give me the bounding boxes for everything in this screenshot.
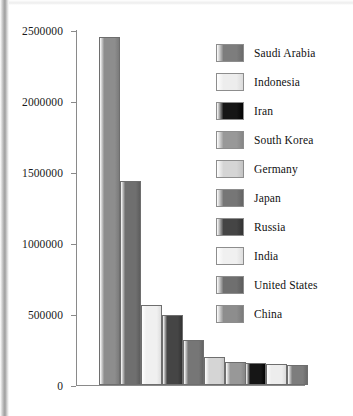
legend-swatch: [216, 131, 244, 149]
legend-label: Japan: [254, 192, 281, 204]
legend-item-iran[interactable]: Iran: [216, 96, 353, 125]
legend-item-japan[interactable]: Japan: [216, 183, 353, 212]
chart-legend: Saudi ArabiaIndonesiaIranSouth KoreaGerm…: [216, 38, 353, 328]
bar-saudi-arabia[interactable]: [287, 365, 308, 385]
legend-swatch: [216, 160, 244, 178]
legend-swatch: [216, 305, 244, 323]
legend-swatch: [216, 44, 244, 62]
legend-label: Indonesia: [254, 76, 300, 88]
legend-swatch: [216, 102, 244, 120]
bar-russia[interactable]: [162, 315, 183, 385]
legend-label: Russia: [254, 221, 286, 233]
bar-indonesia[interactable]: [266, 364, 287, 385]
legend-swatch: [216, 218, 244, 236]
bar-iran[interactable]: [245, 363, 266, 385]
legend-item-saudi-arabia[interactable]: Saudi Arabia: [216, 38, 353, 67]
legend-label: South Korea: [254, 134, 313, 146]
y-axis-tick-label: 1500000: [22, 167, 63, 179]
y-axis-tick-label: 500000: [28, 309, 63, 321]
legend-item-united-states[interactable]: United States: [216, 270, 353, 299]
bar-south-korea[interactable]: [225, 362, 246, 385]
legend-label: United States: [254, 279, 318, 291]
bar-india[interactable]: [141, 305, 162, 385]
y-axis-tick-label: 1000000: [22, 238, 63, 250]
legend-item-germany[interactable]: Germany: [216, 154, 353, 183]
legend-swatch: [216, 189, 244, 207]
legend-label: Germany: [254, 163, 298, 175]
legend-label: Iran: [254, 105, 273, 117]
y-axis-tick-label: 0: [57, 380, 63, 392]
x-axis-line: [76, 385, 305, 386]
legend-item-india[interactable]: India: [216, 241, 353, 270]
legend-item-russia[interactable]: Russia: [216, 212, 353, 241]
frame-edge-top: [0, 0, 353, 5]
y-axis-tick-label: 2000000: [22, 96, 63, 108]
legend-item-south-korea[interactable]: South Korea: [216, 125, 353, 154]
legend-item-indonesia[interactable]: Indonesia: [216, 67, 353, 96]
legend-label: Saudi Arabia: [254, 47, 316, 59]
legend-swatch: [216, 276, 244, 294]
legend-label: India: [254, 250, 278, 262]
bar-united-states[interactable]: [120, 181, 141, 385]
y-axis-tick: 1000000: [71, 244, 76, 245]
y-axis-tick: 2000000: [71, 102, 76, 103]
y-axis-tick: 500000: [71, 315, 76, 316]
frame-edge-left: [0, 0, 9, 416]
y-axis-tick-label: 2500000: [22, 25, 63, 37]
bar-china[interactable]: [99, 37, 120, 385]
bar-germany[interactable]: [204, 357, 225, 385]
legend-label: China: [254, 308, 282, 320]
y-axis-tick: 0: [71, 386, 76, 387]
y-axis-tick: 1500000: [71, 173, 76, 174]
bar-chart-figure: 05000001000000150000020000002500000 Saud…: [0, 0, 353, 416]
legend-item-china[interactable]: China: [216, 299, 353, 328]
bar-japan[interactable]: [183, 340, 204, 385]
legend-swatch: [216, 247, 244, 265]
legend-swatch: [216, 73, 244, 91]
y-axis-tick: 2500000: [71, 31, 76, 32]
